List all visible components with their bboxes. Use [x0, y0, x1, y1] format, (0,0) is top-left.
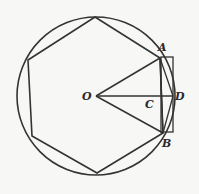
- geometry-diagram: O A B C D: [0, 0, 199, 194]
- label-B: B: [161, 137, 171, 150]
- radius-OA: [96, 58, 160, 96]
- label-C: C: [145, 98, 154, 111]
- diagram-canvas: O A B C D: [0, 0, 199, 194]
- label-A: A: [157, 41, 167, 54]
- inscribed-hexagon: [28, 17, 163, 173]
- label-O: O: [82, 90, 92, 103]
- label-D: D: [174, 90, 185, 103]
